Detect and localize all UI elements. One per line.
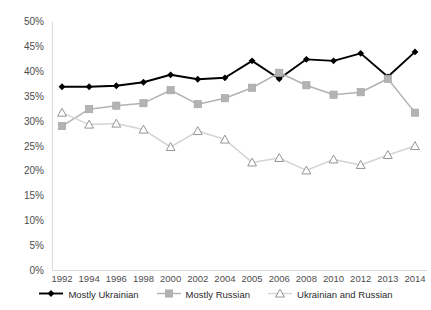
data-point <box>113 82 120 89</box>
data-point <box>166 143 175 151</box>
data-point <box>113 102 120 109</box>
data-point <box>140 79 147 86</box>
data-point <box>276 69 283 76</box>
data-point <box>329 155 338 163</box>
series-line <box>62 52 415 87</box>
data-point <box>58 108 67 116</box>
data-point <box>86 106 93 113</box>
legend-label: Ukrainian and Russian <box>297 289 393 300</box>
data-point <box>194 101 201 108</box>
data-point <box>330 91 337 98</box>
series-2 <box>58 69 418 129</box>
legend-item-2[interactable]: Mostly Russian <box>156 288 250 301</box>
data-point <box>303 82 310 89</box>
series-line <box>62 73 415 126</box>
data-point <box>59 83 66 90</box>
data-point <box>86 83 93 90</box>
data-point <box>167 87 174 94</box>
legend-item-1[interactable]: Mostly Ukrainian <box>38 288 138 301</box>
data-point <box>411 142 420 150</box>
data-point <box>248 84 255 91</box>
legend-item-3[interactable]: Ukrainian and Russian <box>267 288 393 301</box>
data-point <box>411 109 418 116</box>
data-point <box>167 71 174 78</box>
data-point <box>384 75 391 82</box>
data-point <box>357 89 364 96</box>
square-marker-icon <box>156 288 182 301</box>
line-chart: 0%5%10%15%20%25%30%35%40%45%50% 19921994… <box>0 0 431 310</box>
diamond-marker-icon <box>38 288 64 301</box>
series-3 <box>58 108 420 174</box>
legend-label: Mostly Russian <box>186 289 250 300</box>
data-point <box>330 57 337 64</box>
data-point <box>275 154 284 162</box>
chart-legend: Mostly UkrainianMostly RussianUkrainian … <box>0 288 431 301</box>
triangle-marker-icon <box>267 288 293 301</box>
data-point <box>58 122 65 129</box>
series-layer <box>0 0 431 310</box>
data-point <box>193 127 202 135</box>
legend-label: Mostly Ukrainian <box>68 289 138 300</box>
data-point <box>194 76 201 83</box>
data-point <box>221 95 228 102</box>
series-1 <box>59 48 419 90</box>
data-point <box>140 100 147 107</box>
